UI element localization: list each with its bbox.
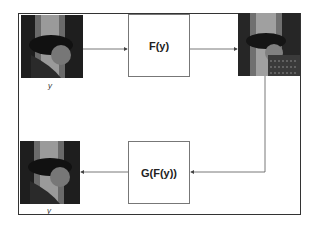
output-label: y: [47, 206, 51, 215]
input-label: y: [48, 81, 52, 90]
input-image: [21, 15, 83, 78]
reconstructed-image: [20, 141, 80, 204]
backward-transform-box: G(F(y)): [128, 141, 190, 204]
forward-transform-box: F(y): [128, 14, 190, 77]
transformed-image: [238, 13, 300, 76]
